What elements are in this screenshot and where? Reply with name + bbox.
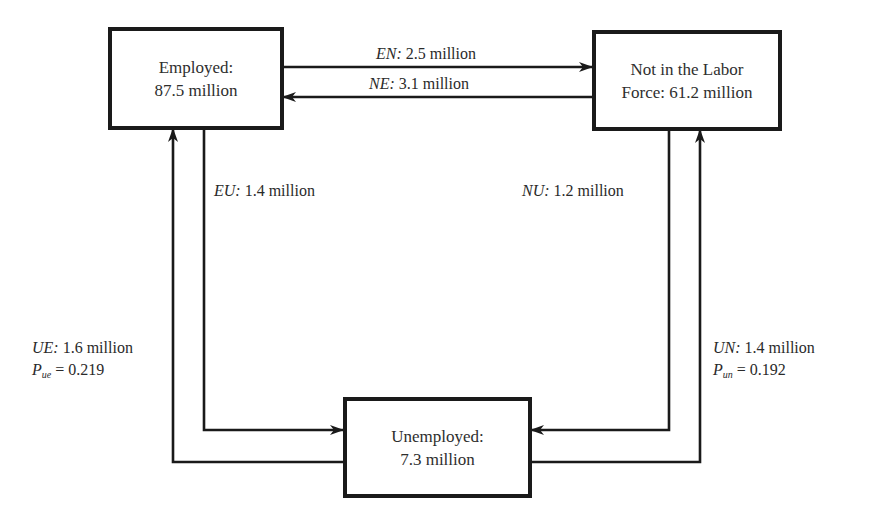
un-value: 1.4 million xyxy=(745,339,815,356)
eu-arrow xyxy=(204,128,343,430)
en-value: 2.5 million xyxy=(406,45,476,62)
nu-value: 1.2 million xyxy=(554,182,624,199)
labor-flow-diagram: Employed: 87.5 million Not in the Labor … xyxy=(0,0,874,520)
ue-flow-label: UE: 1.6 million Pue = 0.219 xyxy=(32,338,133,385)
unemployed-box: Unemployed: 7.3 million xyxy=(343,397,532,498)
eu-flow-label: EU: 1.4 million xyxy=(214,181,315,201)
un-prob-sub: un xyxy=(723,369,733,380)
nu-code: NU: xyxy=(522,182,550,199)
ue-code: UE: xyxy=(32,339,59,356)
nilf-value: Force: 61.2 million xyxy=(622,81,753,104)
ue-probability: Pue = 0.219 xyxy=(32,360,133,385)
ue-prob-symbol: P xyxy=(32,361,42,378)
ne-flow-label: NE: 3.1 million xyxy=(369,74,469,94)
ue-value: 1.6 million xyxy=(63,339,133,356)
un-probability: Pun = 0.192 xyxy=(713,360,815,385)
nu-flow-label: NU: 1.2 million xyxy=(522,181,624,201)
un-prob-symbol: P xyxy=(713,361,723,378)
employed-value: 87.5 million xyxy=(154,79,237,102)
ue-prob-value: = 0.219 xyxy=(55,361,104,378)
employed-box: Employed: 87.5 million xyxy=(108,27,284,130)
unemployed-value: 7.3 million xyxy=(391,448,484,471)
nilf-label: Not in the Labor xyxy=(622,58,753,81)
unemployed-label: Unemployed: xyxy=(391,425,484,448)
ne-code: NE: xyxy=(369,75,395,92)
eu-value: 1.4 million xyxy=(245,182,315,199)
un-code: UN: xyxy=(713,339,741,356)
ue-prob-sub: ue xyxy=(42,369,51,380)
not-in-labor-force-box: Not in the Labor Force: 61.2 million xyxy=(592,30,782,131)
un-arrow xyxy=(530,130,700,462)
en-code: EN: xyxy=(376,45,402,62)
un-prob-value: = 0.192 xyxy=(737,361,786,378)
ne-value: 3.1 million xyxy=(399,75,469,92)
eu-code: EU: xyxy=(214,182,241,199)
ue-arrow xyxy=(173,129,344,462)
employed-label: Employed: xyxy=(154,56,237,79)
un-flow-label: UN: 1.4 million Pun = 0.192 xyxy=(713,338,815,385)
nu-arrow xyxy=(531,129,669,430)
en-flow-label: EN: 2.5 million xyxy=(376,44,476,64)
